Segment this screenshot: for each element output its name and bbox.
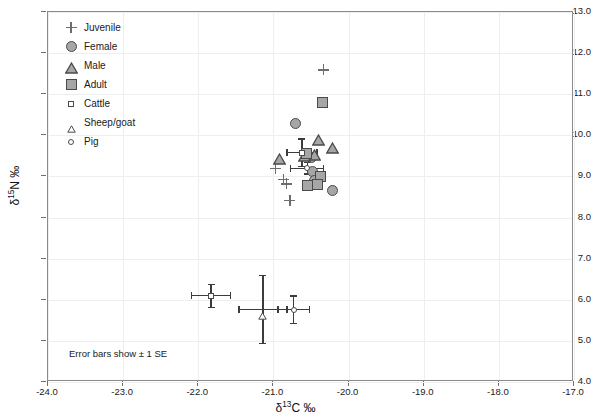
y-axis-tick-mark xyxy=(41,258,46,259)
data-point-female xyxy=(290,118,301,129)
grid-line-vertical xyxy=(198,12,199,380)
grid-line-horizontal xyxy=(48,382,572,383)
legend-marker-adult xyxy=(58,75,84,94)
legend-item-sheep-goat[interactable]: Sheep/goat xyxy=(58,113,178,132)
y-axis-tick-mark xyxy=(41,217,46,218)
data-point-juvenile xyxy=(281,178,292,189)
legend-marker-male xyxy=(65,60,78,72)
grid-line-horizontal xyxy=(48,300,572,301)
y-axis-label-delta: δ xyxy=(8,199,22,206)
error-bar-cap xyxy=(208,307,215,308)
grid-line-horizontal xyxy=(48,259,572,260)
x-axis-tick-label: -19.0 xyxy=(393,386,453,397)
grid-line-horizontal xyxy=(48,218,572,219)
chart-legend: JuvenileFemaleMaleAdultCattleSheep/goatP… xyxy=(58,18,178,151)
grid-line-vertical xyxy=(424,12,425,380)
legend-marker-juvenile xyxy=(58,18,84,37)
legend-marker-sheepgoat xyxy=(58,113,84,132)
data-point-male xyxy=(312,132,325,144)
y-axis-tick-mark xyxy=(41,381,46,382)
x-axis-label-tail: C ‰ xyxy=(291,401,315,415)
legend-marker-sheepgoat xyxy=(67,119,76,127)
data-point-adult xyxy=(317,97,328,108)
data-point-male xyxy=(273,151,286,163)
error-bar-caption: Error bars show ± 1 SE xyxy=(69,348,167,359)
y-axis-tick-mark xyxy=(41,93,46,94)
x-axis-tick-label: -21.0 xyxy=(242,386,302,397)
legend-marker-juvenile xyxy=(66,22,77,33)
error-bar-cap xyxy=(238,306,239,313)
error-bar-cap xyxy=(259,275,266,276)
legend-item-pig[interactable]: Pig xyxy=(58,132,178,151)
y-axis-tick-mark xyxy=(41,52,46,53)
data-point-sheep-goat xyxy=(258,306,267,314)
x-axis-tick-label: -22.0 xyxy=(167,386,227,397)
legend-marker-adult xyxy=(66,79,77,90)
data-point-juvenile xyxy=(318,64,329,75)
y-axis-tick-mark xyxy=(41,134,46,135)
error-bar-cap xyxy=(208,284,215,285)
y-axis-tick-mark xyxy=(41,11,46,12)
legend-label: Adult xyxy=(84,79,107,90)
legend-marker-female xyxy=(58,37,84,56)
data-point-cattle-upper xyxy=(299,150,305,156)
x-axis-tick-mark xyxy=(573,381,574,386)
legend-label: Male xyxy=(84,60,106,71)
legend-item-female[interactable]: Female xyxy=(58,37,178,56)
error-bar-cap xyxy=(290,295,297,296)
legend-label: Pig xyxy=(84,136,98,147)
legend-label: Sheep/goat xyxy=(84,117,135,128)
error-bar-cap xyxy=(259,343,266,344)
legend-marker-pig xyxy=(68,139,74,145)
error-bar-cap xyxy=(309,306,310,313)
y-axis-tick-mark xyxy=(41,175,46,176)
legend-label: Juvenile xyxy=(84,22,121,33)
grid-line-vertical xyxy=(574,12,575,380)
x-axis-tick-label: -23.0 xyxy=(92,386,152,397)
x-axis-tick-label: -20.0 xyxy=(318,386,378,397)
data-point-female xyxy=(327,185,338,196)
data-point-juvenile xyxy=(284,195,295,206)
legend-label: Cattle xyxy=(84,98,110,109)
legend-marker-cattle xyxy=(68,101,74,107)
x-axis-tick-label: -24.0 xyxy=(17,386,77,397)
error-bar-cap xyxy=(191,292,192,299)
y-axis-label-superscript: 15 xyxy=(7,190,16,199)
legend-item-juvenile[interactable]: Juvenile xyxy=(58,18,178,37)
legend-marker-male xyxy=(58,56,84,75)
x-axis-tick-label: -17.0 xyxy=(543,386,596,397)
error-bar-cap xyxy=(230,292,231,299)
grid-line-vertical xyxy=(349,12,350,380)
data-point-adult xyxy=(302,180,313,191)
legend-marker-female xyxy=(66,41,77,52)
y-axis-tick-mark xyxy=(41,299,46,300)
legend-marker-cattle xyxy=(58,94,84,113)
x-axis-label: δ13C ‰ xyxy=(0,400,591,415)
grid-line-vertical xyxy=(499,12,500,380)
legend-item-cattle[interactable]: Cattle xyxy=(58,94,178,113)
y-axis-label-tail: N ‰ xyxy=(8,166,22,190)
data-point-adult xyxy=(312,179,323,190)
grid-line-vertical xyxy=(48,12,49,380)
data-point-cattle xyxy=(208,293,214,299)
x-axis-tick-label: -18.0 xyxy=(468,386,528,397)
error-bar-cap xyxy=(277,306,278,313)
grid-line-horizontal xyxy=(48,341,572,342)
grid-line-horizontal xyxy=(48,12,572,13)
x-axis-label-superscript: 13 xyxy=(282,400,291,409)
y-axis-tick-mark xyxy=(41,340,46,341)
error-bar-cap xyxy=(298,138,305,139)
legend-marker-pig xyxy=(58,132,84,151)
y-axis-label: δ15N ‰ xyxy=(7,126,22,246)
data-point-pig xyxy=(291,307,297,313)
grid-line-vertical xyxy=(273,12,274,380)
error-bar-cap xyxy=(286,149,287,156)
data-point-male xyxy=(326,140,339,152)
error-bar-cap xyxy=(290,323,297,324)
legend-item-male[interactable]: Male xyxy=(58,56,178,75)
error-bar-cap xyxy=(290,165,291,172)
legend-label: Female xyxy=(84,41,117,52)
legend-item-adult[interactable]: Adult xyxy=(58,75,178,94)
